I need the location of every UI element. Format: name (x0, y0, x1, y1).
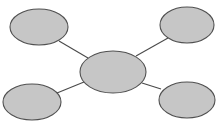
nodes (3, 7, 215, 120)
node-top-right[interactable] (160, 7, 214, 43)
spider-diagram (0, 0, 220, 122)
connector-bottom-right (142, 83, 161, 89)
connector-top-left (59, 41, 88, 58)
node-bottom-left[interactable] (3, 84, 61, 120)
connector-bottom-left (57, 82, 84, 93)
node-top-left[interactable] (10, 9, 68, 45)
connector-top-right (136, 38, 168, 56)
node-bottom-right[interactable] (159, 82, 215, 118)
node-center[interactable] (80, 51, 146, 93)
